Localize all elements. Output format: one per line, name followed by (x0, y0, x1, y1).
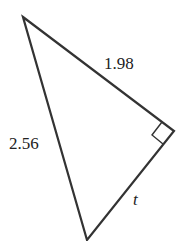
triangle-diagram: 1.98 2.56 t (0, 0, 176, 241)
triangle-shape (0, 0, 176, 241)
label-hypotenuse: 2.56 (9, 135, 39, 152)
label-side-t: t (133, 191, 138, 208)
label-side-top: 1.98 (104, 55, 134, 72)
right-angle-marker (152, 122, 163, 144)
